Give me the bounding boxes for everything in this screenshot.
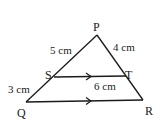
side-qr: [26, 100, 143, 102]
vertex-label-p: P: [93, 20, 100, 34]
measurement-st: 6 cm: [94, 80, 116, 92]
vertex-label-q: Q: [17, 106, 26, 120]
vertex-label-r: R: [145, 104, 153, 118]
measurement-pt: 4 cm: [113, 41, 135, 53]
vertex-label-s: S: [45, 68, 52, 82]
triangle-diagram: P S T Q R 5 cm 4 cm 3 cm 6 cm: [0, 0, 165, 138]
measurement-sq: 3 cm: [8, 83, 30, 95]
measurement-ps: 5 cm: [50, 44, 72, 56]
vertex-label-t: T: [125, 68, 133, 82]
